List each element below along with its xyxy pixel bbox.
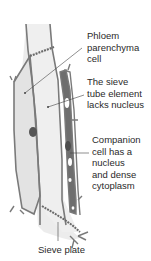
companion-vacuole-1 bbox=[65, 98, 70, 108]
pointer-dot-sieve-tube bbox=[47, 106, 49, 108]
pointer-dot-parenchyma bbox=[24, 92, 26, 94]
label-sieve-tube-element: The sieve tube element lacks nucleus bbox=[87, 76, 144, 111]
label-sieve-plate: Sieve plate bbox=[38, 244, 85, 256]
companion-vacuole-2 bbox=[68, 158, 72, 166]
parenchyma-nucleus bbox=[29, 127, 37, 137]
label-phloem-parenchyma: Phloem parenchyma cell bbox=[87, 30, 139, 65]
companion-nucleus bbox=[65, 141, 71, 151]
companion-vacuole-4 bbox=[72, 206, 75, 210]
companion-vacuole-3 bbox=[68, 178, 71, 182]
label-companion-cell: Companion cell has a nucleus and dense c… bbox=[92, 134, 141, 192]
